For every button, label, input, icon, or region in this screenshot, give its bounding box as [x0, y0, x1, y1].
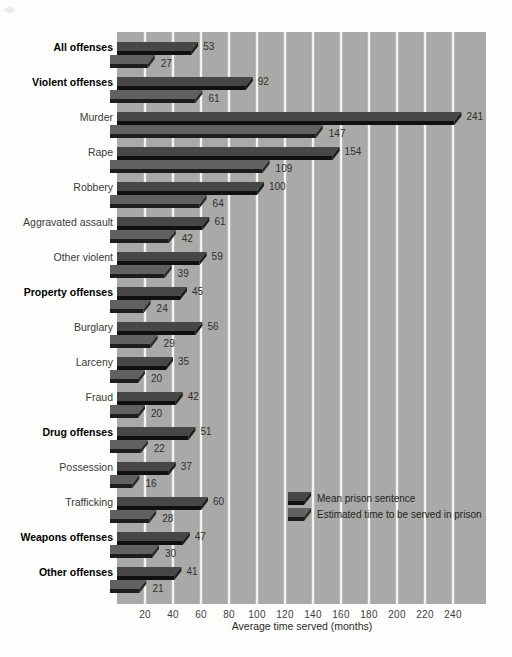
time-served-value: 16: [145, 478, 157, 489]
time-served-bar-front-face: [110, 449, 141, 453]
mean-sentence-value: 100: [269, 181, 286, 192]
mean-sentence-value: 53: [203, 41, 215, 52]
mean-sentence-value: 56: [207, 321, 219, 332]
category-label-weapons-offenses: Weapons offenses: [20, 531, 113, 543]
mean-sentence-bar-front-face: [117, 401, 176, 405]
time-served-bar-front-face: [110, 344, 151, 348]
mean-sentence-bar-top-face: [117, 567, 181, 576]
time-served-bar-top-face: [110, 125, 323, 134]
time-served-value: 24: [157, 303, 169, 314]
x-tick-label: 60: [195, 609, 207, 620]
time-served-bar-front-face: [110, 554, 152, 558]
category-label-robbery: Robbery: [73, 181, 113, 193]
category-label-burglary: Burglary: [74, 321, 114, 333]
x-tick-label: 40: [167, 609, 179, 620]
mean-sentence-bar-top-face: [117, 217, 209, 226]
time-served-bar-front-face: [110, 239, 169, 243]
time-served-value: 109: [276, 163, 293, 174]
category-label-fraud: Fraud: [86, 391, 114, 403]
mean-sentence-value: 51: [200, 426, 212, 437]
category-label-other-offenses: Other offenses: [39, 566, 113, 578]
category-label-murder: Murder: [80, 111, 114, 123]
mean-sentence-bar-front-face: [117, 436, 188, 440]
time-served-value: 64: [213, 198, 225, 209]
mean-sentence-value: 60: [213, 496, 225, 507]
x-tick-label: 240: [444, 609, 462, 620]
mean-sentence-value: 47: [195, 531, 207, 542]
time-served-value: 20: [151, 373, 163, 384]
mean-sentence-bar-top-face: [117, 532, 190, 541]
time-served-value: 22: [154, 443, 166, 454]
time-served-bar-top-face: [110, 160, 270, 169]
x-tick-label: 80: [223, 609, 235, 620]
x-tick-label: 120: [276, 609, 294, 620]
category-label-trafficking: Trafficking: [65, 496, 113, 508]
mean-sentence-bar-front-face: [117, 86, 246, 90]
time-served-bar-front-face: [110, 379, 138, 383]
mean-sentence-bar-front-face: [117, 366, 166, 370]
mean-sentence-bar-top-face: [117, 112, 461, 121]
mean-sentence-bar-front-face: [117, 51, 191, 55]
mean-sentence-bar-front-face: [117, 471, 169, 475]
time-served-value: 20: [151, 408, 163, 419]
mean-sentence-value: 42: [188, 391, 200, 402]
mean-sentence-bar-front-face: [117, 506, 201, 510]
time-served-bar-front-face: [110, 64, 148, 68]
x-tick-label: 140: [304, 609, 322, 620]
mean-sentence-bar-front-face: [117, 226, 202, 230]
time-served-bar-top-face: [110, 265, 172, 274]
time-served-bar-top-face: [110, 300, 151, 309]
mean-sentence-bar-front-face: [117, 121, 454, 125]
time-served-bar-front-face: [110, 204, 200, 208]
legend-label-time-served: Estimated time to be served in prison: [317, 509, 482, 520]
mean-sentence-value: 154: [345, 146, 362, 157]
mean-sentence-bar-top-face: [117, 497, 208, 506]
legend-swatch-time-served-front-face: [288, 517, 304, 521]
time-served-value: 28: [162, 513, 174, 524]
mean-sentence-bar-front-face: [117, 541, 183, 545]
mean-sentence-bar-top-face: [117, 357, 173, 366]
mean-sentence-bar-front-face: [117, 331, 195, 335]
legend-swatch-mean-sentence-front-face: [288, 501, 304, 505]
category-label-possession: Possession: [59, 461, 113, 473]
x-tick-label: 100: [248, 609, 266, 620]
category-label-violent-offenses: Violent offenses: [32, 76, 113, 88]
mean-sentence-value: 241: [466, 111, 483, 122]
time-served-bar-front-face: [110, 134, 316, 138]
time-served-bar-top-face: [110, 90, 202, 99]
mean-sentence-value: 92: [258, 76, 270, 87]
mean-sentence-bar-top-face: [117, 287, 187, 296]
mean-sentence-bar-front-face: [117, 296, 180, 300]
category-label-property-offenses: Property offenses: [24, 286, 113, 298]
mean-sentence-bar-front-face: [117, 261, 200, 265]
x-tick-label: 180: [360, 609, 378, 620]
time-served-bar-top-face: [110, 545, 159, 554]
mean-sentence-bar-top-face: [117, 147, 340, 156]
category-label-rape: Rape: [88, 146, 113, 158]
mean-sentence-bar-top-face: [117, 322, 202, 331]
mean-sentence-bar-front-face: [117, 191, 257, 195]
scan-smudge: [4, 7, 15, 13]
x-tick-label: 20: [139, 609, 151, 620]
time-served-value: 42: [182, 233, 194, 244]
time-served-value: 30: [165, 548, 177, 559]
time-served-value: 29: [164, 338, 176, 349]
time-served-bar-front-face: [110, 484, 132, 488]
time-served-bar-front-face: [110, 169, 263, 173]
time-served-bar-front-face: [110, 589, 139, 593]
category-label-aggravated-assault: Aggravated assault: [23, 216, 113, 228]
time-served-bar-front-face: [110, 274, 165, 278]
x-axis-title: Average time served (months): [232, 620, 372, 632]
time-served-bar-top-face: [110, 230, 176, 239]
mean-sentence-bar-top-face: [117, 252, 207, 261]
time-served-value: 27: [161, 58, 173, 69]
mean-sentence-value: 59: [212, 251, 224, 262]
mean-sentence-bar-front-face: [117, 156, 333, 160]
time-served-value: 21: [152, 583, 164, 594]
mean-sentence-bar-top-face: [117, 77, 253, 86]
scanned-page: All offenses5327Violent offenses9261Murd…: [0, 0, 512, 657]
x-tick-label: 160: [332, 609, 350, 620]
time-served-bar-top-face: [110, 510, 156, 519]
legend-label-mean-sentence: Mean prison sentence: [317, 493, 416, 504]
mean-sentence-value: 41: [186, 566, 198, 577]
